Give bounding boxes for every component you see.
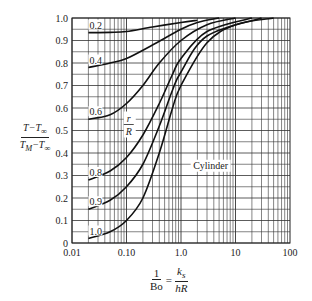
x-tick-label: 100 bbox=[283, 247, 298, 258]
y-tick-label: 0.2 bbox=[56, 193, 69, 204]
y-tick-label: 0.9 bbox=[56, 35, 69, 46]
r-over-R-num: r bbox=[127, 113, 131, 124]
y-axis-label: T−T∞ TM−T∞ bbox=[4, 122, 66, 153]
x-label-bo-fraction: 1 Bo bbox=[150, 267, 163, 292]
x-tick-label: 0.10 bbox=[118, 247, 136, 258]
curve-r-0.8 bbox=[88, 18, 252, 180]
curve-label-1.0: 1.0 bbox=[89, 226, 102, 237]
x-tick-label: 0.01 bbox=[63, 247, 81, 258]
curve-label-0.9: 0.9 bbox=[89, 196, 102, 207]
y-tick-label: 0.7 bbox=[56, 80, 69, 91]
curve-label-0.4: 0.4 bbox=[89, 55, 102, 66]
x-label-equals: = bbox=[166, 274, 172, 286]
x-tick-label: 10 bbox=[231, 247, 241, 258]
curve-label-0.8: 0.8 bbox=[89, 167, 102, 178]
y-tick-label: 0.8 bbox=[56, 58, 69, 69]
curve-label-0.2: 0.2 bbox=[89, 20, 102, 31]
cylinder-label: Cylinder bbox=[193, 160, 229, 171]
y-tick-label: 0.3 bbox=[56, 170, 69, 181]
r-over-R-den: R bbox=[125, 126, 132, 137]
x-axis-label: 1 Bo = ks hR bbox=[150, 265, 188, 294]
y-tick-label: 0.1 bbox=[56, 215, 69, 226]
y-label-denominator: TM−T∞ bbox=[4, 138, 66, 153]
curve-label-0.6: 0.6 bbox=[89, 106, 102, 117]
x-label-ks-fraction: ks hR bbox=[175, 265, 187, 294]
y-tick-label: 0.6 bbox=[56, 103, 69, 114]
x-tick-label: 1.0 bbox=[175, 247, 188, 258]
y-tick-label: 1.0 bbox=[56, 13, 69, 24]
y-label-numerator: T−T∞ bbox=[21, 122, 49, 138]
